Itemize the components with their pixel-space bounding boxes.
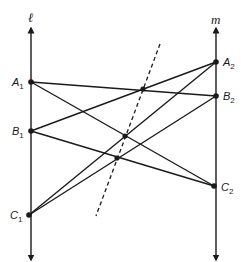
parallel-lines	[31, 30, 216, 258]
point-label-B2: B2	[223, 90, 235, 105]
point-A1	[28, 79, 34, 85]
point-B1	[28, 128, 34, 134]
labels: ℓmA1B1C1A2B2C2	[10, 10, 235, 224]
connecting-segments	[29, 62, 216, 215]
intersection-BC	[114, 155, 119, 160]
point-label-C1: C1	[10, 209, 23, 224]
pappus-diagram: ℓmA1B1C1A2B2C2	[0, 0, 241, 262]
point-label-C2: C2	[221, 181, 234, 196]
point-B2	[213, 93, 219, 99]
point-C1	[26, 212, 32, 218]
segment-C1-B2	[29, 96, 216, 215]
point-label-A1: A1	[11, 76, 24, 91]
line-label-l: ℓ	[28, 10, 34, 25]
intersection-AB	[140, 86, 145, 91]
segment-B1-A2	[31, 62, 216, 131]
dashed-pappus-line	[96, 44, 160, 216]
point-A2	[213, 59, 219, 65]
intersection-AC	[122, 133, 127, 138]
point-label-A2: A2	[222, 56, 235, 71]
pappus-line	[96, 44, 160, 216]
point-label-B1: B1	[12, 125, 24, 140]
point-C2	[211, 183, 217, 189]
line-label-m: m	[211, 12, 220, 27]
